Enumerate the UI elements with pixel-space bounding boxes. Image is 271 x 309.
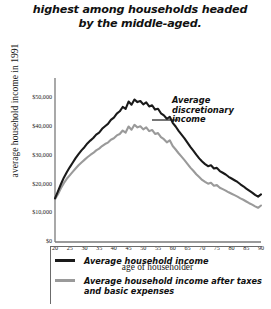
legend-swatch-icon	[55, 279, 75, 282]
chart-area: average household income in 1991 $0$10,0…	[0, 42, 271, 234]
legend-label: Average household income	[84, 256, 208, 266]
legend-item-after-taxes: Average household income after taxes and…	[55, 276, 262, 296]
legend-item-average-household-income: Average household income	[55, 256, 208, 266]
chart-title: highest among households headed by the m…	[32, 3, 248, 31]
legend: Average household income Average househo…	[50, 246, 262, 304]
plot-lines	[0, 42, 271, 257]
legend-label: Average household income after taxes and…	[84, 276, 262, 296]
annotation-discretionary-income: Average discretionary income	[172, 96, 262, 125]
series-line	[55, 125, 261, 208]
chart-page: highest among households headed by the m…	[0, 0, 271, 309]
legend-swatch-icon	[55, 259, 75, 262]
